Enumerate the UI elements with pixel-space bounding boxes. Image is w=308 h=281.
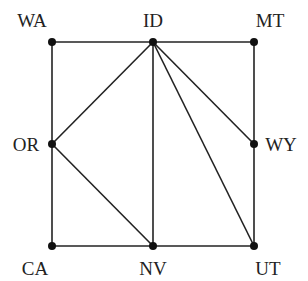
node-label-ut: UT	[255, 258, 281, 279]
node-label-mt: MT	[256, 10, 285, 31]
edge-id-or	[52, 42, 153, 144]
node-nv	[149, 242, 157, 250]
node-label-nv: NV	[139, 258, 167, 279]
node-mt	[250, 38, 258, 46]
node-label-id: ID	[143, 10, 163, 31]
node-label-wa: WA	[17, 10, 47, 31]
node-label-wy: WY	[265, 134, 297, 155]
edge-id-ut	[153, 42, 254, 246]
node-wa	[48, 38, 56, 46]
node-ut	[250, 242, 258, 250]
edges	[52, 42, 254, 246]
edge-or-nv	[52, 144, 153, 246]
node-label-or: OR	[13, 134, 40, 155]
state-adjacency-graph: WAIDMTORWYCANVUT	[0, 0, 308, 281]
node-ca	[48, 242, 56, 250]
node-label-ca: CA	[22, 258, 49, 279]
node-id	[149, 38, 157, 46]
edge-id-wy	[153, 42, 254, 144]
node-or	[48, 140, 56, 148]
node-wy	[250, 140, 258, 148]
